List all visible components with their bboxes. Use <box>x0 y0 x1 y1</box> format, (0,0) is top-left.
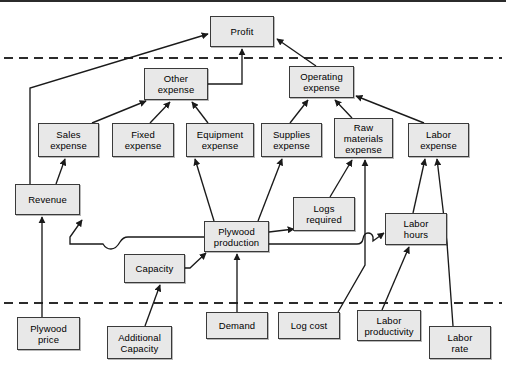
node-label: Suppliesexpense <box>271 129 312 151</box>
edge-logs-required-to-raw-materials <box>330 160 352 197</box>
edge-sales-expense-to-other-expense <box>92 101 146 123</box>
edge-labor-productivity-to-labor-hours <box>382 247 409 310</box>
node-logs-required[interactable]: Logsrequired <box>293 197 355 231</box>
edge-raw-materials-to-operating-expense <box>335 100 352 118</box>
node-label: Otherexpense <box>156 73 197 95</box>
node-label: Equipmentexpense <box>195 129 245 151</box>
node-label: Plywoodprice <box>28 323 69 345</box>
node-label: Rawmaterialsexpense <box>342 122 385 155</box>
node-label: Capacity <box>134 263 176 274</box>
node-label: Laborhours <box>402 218 431 240</box>
node-additional-capacity[interactable]: AdditionalCapacity <box>107 326 172 359</box>
edge-plywood-production-to-labor-hours <box>269 233 384 244</box>
node-label: Revenue <box>26 194 69 205</box>
edge-revenue-to-sales-expense <box>56 159 65 184</box>
node-raw-materials[interactable]: Rawmaterialsexpense <box>334 118 393 158</box>
node-capacity[interactable]: Capacity <box>124 254 185 283</box>
node-plywood-price[interactable]: Plywoodprice <box>17 317 80 350</box>
node-label: Laborexpense <box>418 129 459 151</box>
node-other-expense[interactable]: Otherexpense <box>144 68 208 100</box>
node-label: Laborproductivity <box>362 315 415 337</box>
edge-labor-hours-to-labor-expense <box>413 159 425 213</box>
edge-revenue-to-profit <box>30 34 208 184</box>
node-profit[interactable]: Profit <box>210 16 274 47</box>
edge-plywood-production-to-revenue <box>70 220 204 249</box>
node-label: AdditionalCapacity <box>116 332 163 354</box>
node-label: Laborrate <box>446 332 475 354</box>
edge-equipment-expense-to-other-expense <box>192 102 208 123</box>
node-label: Logsrequired <box>304 203 344 225</box>
node-revenue[interactable]: Revenue <box>15 184 80 215</box>
edge-additional-capacity-to-capacity <box>145 285 160 326</box>
influence-diagram-canvas: ProfitOtherexpenseOperatingexpenseSalese… <box>0 0 506 371</box>
edge-plywood-production-to-equipment-expense <box>195 159 214 221</box>
node-labor-productivity[interactable]: Laborproductivity <box>357 310 421 341</box>
edge-plywood-production-to-supplies-expense <box>258 159 282 221</box>
node-label: Log cost <box>289 320 330 331</box>
node-labor-rate[interactable]: Laborrate <box>429 326 491 359</box>
node-labor-expense[interactable]: Laborexpense <box>408 123 469 157</box>
node-sales-expense[interactable]: Salesexpense <box>38 123 99 157</box>
edge-supplies-expense-to-operating-expense <box>290 100 308 123</box>
node-fixed-expense[interactable]: Fixedexpense <box>112 123 174 157</box>
node-label: Fixedexpense <box>123 129 164 151</box>
edge-log-cost-to-raw-materials <box>338 160 365 312</box>
edge-fixed-expense-to-other-expense <box>150 102 170 123</box>
node-plywood-production[interactable]: Plywoodproduction <box>204 221 269 252</box>
node-label: Salesexpense <box>48 129 89 151</box>
edge-capacity-to-plywood-production <box>185 253 206 268</box>
node-log-cost[interactable]: Log cost <box>278 312 340 339</box>
edge-group <box>30 34 453 326</box>
node-demand[interactable]: Demand <box>206 312 268 339</box>
node-operating-expense[interactable]: Operatingexpense <box>289 66 354 98</box>
dashed-divider-group <box>4 58 502 303</box>
node-label: Profit <box>229 26 256 37</box>
node-labor-hours[interactable]: Laborhours <box>385 213 447 245</box>
node-equipment-expense[interactable]: Equipmentexpense <box>186 123 254 157</box>
node-label: Demand <box>217 320 258 331</box>
edge-operating-expense-to-profit <box>277 39 316 66</box>
edge-plywood-production-to-logs-required <box>269 229 294 232</box>
node-label: Plywoodproduction <box>212 226 261 248</box>
edge-other-expense-to-profit <box>208 49 242 84</box>
node-label: Operatingexpense <box>298 71 345 93</box>
node-supplies-expense[interactable]: Suppliesexpense <box>261 123 322 157</box>
